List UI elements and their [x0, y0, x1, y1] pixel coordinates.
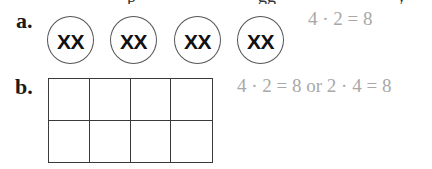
- clipped-text-line: p gg y: [0, 0, 432, 4]
- group-items: XX: [120, 30, 147, 54]
- problem-b-label: b.: [15, 76, 33, 98]
- grid-cell: [90, 79, 131, 121]
- grid-cell: [49, 121, 90, 163]
- problem-a-equation: 4 · 2 = 8: [308, 9, 373, 28]
- clipped-glyph: gg: [258, 0, 276, 4]
- group-circle-2: XX: [110, 16, 157, 64]
- group-circle-4: XX: [237, 16, 284, 64]
- group-circle-1: XX: [47, 16, 94, 64]
- problem-a-label: a.: [16, 10, 33, 32]
- grid-cell: [131, 79, 172, 121]
- grid-cell: [171, 121, 212, 163]
- grid-cell: [90, 121, 131, 163]
- group-items: XX: [247, 30, 274, 54]
- grid-cell: [131, 121, 172, 163]
- grid-cell: [171, 79, 212, 121]
- array-grid: [48, 78, 213, 163]
- group-circle-3: XX: [174, 16, 221, 64]
- problem-b-equation: 4 · 2 = 8 or 2 · 4 = 8: [237, 76, 391, 95]
- grid-cell: [49, 79, 90, 121]
- clipped-glyph: p: [127, 0, 136, 4]
- clipped-glyph: y: [397, 0, 406, 4]
- group-items: XX: [184, 30, 211, 54]
- group-items: XX: [57, 30, 84, 54]
